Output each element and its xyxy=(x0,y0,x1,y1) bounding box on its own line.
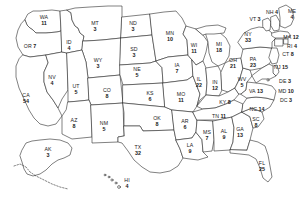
state-shape-mn xyxy=(150,11,188,61)
state-shape-wy xyxy=(82,38,121,78)
state-shape-nh xyxy=(271,15,280,31)
state-shape-sd xyxy=(120,35,156,65)
state-shape-hi xyxy=(104,174,120,188)
state-shape-nd xyxy=(121,14,152,38)
state-shape-vt xyxy=(263,18,271,31)
state-shape-al xyxy=(213,117,234,151)
state-shape-ma xyxy=(272,31,291,38)
state-shape-tx xyxy=(118,126,183,173)
state-shape-ne xyxy=(120,61,163,85)
usa-state-outlines xyxy=(0,0,307,202)
state-shape-ar xyxy=(172,110,197,140)
state-shape-in xyxy=(206,66,222,96)
state-shape-ri xyxy=(284,39,288,44)
state-shape-me xyxy=(279,5,294,28)
state-shape-ct xyxy=(275,39,283,46)
state-shape-co xyxy=(88,75,123,105)
state-shape-mi xyxy=(206,30,230,66)
state-shape-ak xyxy=(20,139,72,176)
state-shape-dc xyxy=(267,79,269,81)
state-shape-nc xyxy=(242,97,274,112)
state-shape-ny xyxy=(238,27,276,49)
electoral-college-map: WA11OR7CA54NV4ID4MT3WY3UT5AZ8NM5CO8ND3SD… xyxy=(0,0,307,202)
state-shape-az xyxy=(62,100,92,139)
